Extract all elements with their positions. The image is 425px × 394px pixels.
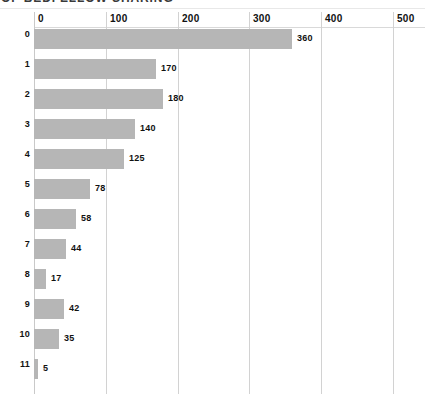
bar-2[interactable] [34, 89, 163, 109]
bar-value-label-3: 140 [140, 123, 156, 133]
bar-1[interactable] [34, 59, 156, 79]
bar-value-label-9: 42 [69, 303, 79, 313]
bar-row: 125 [34, 149, 393, 169]
y-tick-label-0: 0 [8, 29, 30, 39]
bar-row: 140 [34, 119, 393, 139]
x-tick-label-500: 500 [397, 13, 415, 24]
bar-7[interactable] [34, 239, 66, 259]
bar-9[interactable] [34, 299, 64, 319]
bar-value-label-0: 360 [297, 33, 313, 43]
page-title: OF BEDFELLOW SHARING [1, 0, 174, 5]
y-tick-label-11: 11 [8, 359, 30, 369]
bar-value-label-4: 125 [129, 153, 145, 163]
y-tick-label-5: 5 [8, 179, 30, 189]
y-tick-label-3: 3 [8, 119, 30, 129]
bar-value-label-2: 180 [168, 93, 184, 103]
bar-8[interactable] [34, 269, 46, 289]
y-tick-label-8: 8 [8, 269, 30, 279]
x-tick-label-400: 400 [325, 13, 343, 24]
bar-value-label-8: 17 [51, 273, 61, 283]
chart-page: OF BEDFELLOW SHARING Number of bedfellow… [0, 0, 425, 394]
bar-3[interactable] [34, 119, 135, 139]
bar-row: 42 [34, 299, 393, 319]
y-tick-label-6: 6 [8, 209, 30, 219]
bar-value-label-7: 44 [71, 243, 81, 253]
bar-6[interactable] [34, 209, 76, 229]
bar-5[interactable] [34, 179, 90, 199]
x-tick-label-0: 0 [38, 13, 44, 24]
plot-area: 3601701801401257858441742355 [34, 12, 393, 394]
bar-value-label-6: 58 [81, 213, 91, 223]
y-tick-label-1: 1 [8, 59, 30, 69]
gridline-500 [393, 12, 394, 394]
bar-row: 78 [34, 179, 393, 199]
bar-row: 360 [34, 29, 393, 49]
y-tick-label-10: 10 [8, 329, 30, 339]
bar-row: 58 [34, 209, 393, 229]
x-tick-label-200: 200 [182, 13, 200, 24]
bar-10[interactable] [34, 329, 59, 349]
bar-4[interactable] [34, 149, 124, 169]
y-tick-label-9: 9 [8, 299, 30, 309]
bar-row: 17 [34, 269, 393, 289]
bar-11[interactable] [34, 359, 38, 379]
title-divider [0, 8, 425, 9]
y-tick-label-4: 4 [8, 149, 30, 159]
bar-row: 170 [34, 59, 393, 79]
bar-value-label-1: 170 [161, 63, 177, 73]
bar-value-label-5: 78 [95, 183, 105, 193]
bar-value-label-10: 35 [64, 333, 74, 343]
y-tick-label-7: 7 [8, 239, 30, 249]
x-tick-label-100: 100 [110, 13, 128, 24]
y-tick-label-2: 2 [8, 89, 30, 99]
bar-0[interactable] [34, 29, 292, 49]
bar-row: 5 [34, 359, 393, 379]
bar-row: 44 [34, 239, 393, 259]
bar-value-label-11: 5 [43, 363, 48, 373]
x-tick-label-300: 300 [253, 13, 271, 24]
bar-row: 180 [34, 89, 393, 109]
bar-row: 35 [34, 329, 393, 349]
